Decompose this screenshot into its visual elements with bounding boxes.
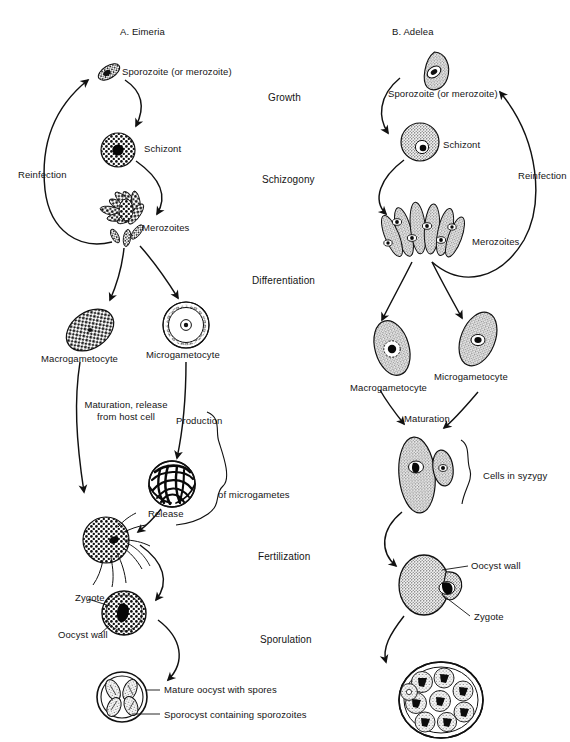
arrow-to-microgametocyte-a bbox=[140, 246, 178, 298]
label-sporozoite-a: Sporozoite (or merozoite) bbox=[122, 66, 232, 78]
arrow-to-macrogametocyte-b bbox=[382, 262, 412, 320]
label-zygote-a: Zygote bbox=[75, 592, 105, 604]
label-reinfection-a: Reinfection bbox=[18, 169, 67, 181]
merozoites-cluster-a bbox=[99, 190, 146, 248]
zygote-oocyst-a bbox=[102, 591, 146, 635]
label-maturation-a-text: Maturation, release from host cell bbox=[84, 399, 167, 422]
leader-zygote-b bbox=[444, 596, 470, 616]
stage-differentiation: Differentiation bbox=[252, 275, 315, 287]
arrow-growth-b bbox=[382, 78, 400, 133]
panel-a-title: A. Eimeria bbox=[120, 26, 165, 38]
label-merozoites-b: Merozoites bbox=[472, 236, 519, 248]
label-mature-oocyst-a: Mature oocyst with spores bbox=[164, 684, 277, 696]
sporozoite-cell-b bbox=[421, 50, 452, 91]
arrow-reinfection-a bbox=[44, 80, 112, 244]
label-reinfection-b: Reinfection bbox=[518, 170, 567, 182]
macrogametocyte-cell-a bbox=[58, 300, 121, 359]
syzygy-pair-b bbox=[396, 436, 456, 515]
label-merozoites-a: Merozoites bbox=[142, 222, 189, 234]
merozoites-cluster-b bbox=[377, 201, 468, 259]
arrow-production-a bbox=[177, 362, 186, 458]
fertilization-cell-a bbox=[83, 513, 150, 587]
stage-sporulation: Sporulation bbox=[260, 634, 312, 646]
label-microgametocyte-b: Microgametocyte bbox=[434, 371, 508, 383]
stage-growth: Growth bbox=[268, 92, 301, 104]
label-microgametocyte-a: Microgametocyte bbox=[146, 349, 220, 361]
label-production-a: Production bbox=[176, 415, 222, 427]
label-maturation-b: Maturation bbox=[404, 413, 450, 425]
label-release-a: Release bbox=[148, 508, 184, 520]
stage-schizogony: Schizogony bbox=[262, 174, 315, 186]
panel-b-title: B. Adelea bbox=[392, 26, 434, 38]
figure-coccidian-life-cycles: A. Eimeria B. Adelea Growth Schizogony D… bbox=[0, 0, 570, 742]
label-sporocyst-a: Sporocyst containing sporozoites bbox=[164, 709, 307, 721]
arrow-maturation-a bbox=[77, 362, 84, 492]
leader-oocyst-wall-b bbox=[442, 566, 468, 570]
label-schizont-b: Schizont bbox=[443, 139, 480, 151]
stage-fertilization: Fertilization bbox=[258, 551, 310, 563]
zygote-oocyst-b bbox=[399, 555, 462, 615]
microgametocyte-cell-a bbox=[163, 302, 209, 348]
label-macrogametocyte-b: Macrogametocyte bbox=[350, 382, 427, 394]
arrow-fertilization-b bbox=[385, 512, 402, 566]
macrogametocyte-cell-b bbox=[368, 316, 416, 379]
panel-b-prefix: B. bbox=[392, 26, 401, 37]
schizont-cell-a bbox=[101, 133, 135, 167]
mature-oocyst-b bbox=[399, 662, 483, 738]
schizont-cell-b bbox=[401, 123, 439, 161]
mature-oocyst-a bbox=[97, 672, 147, 722]
label-oocyst-wall-b: Oocyst wall bbox=[471, 560, 521, 572]
label-macrogametocyte-a: Macrogametocyte bbox=[41, 353, 118, 365]
panel-a-prefix: A. bbox=[120, 26, 129, 37]
arrow-growth-a bbox=[125, 80, 141, 126]
arrow-to-macrogametocyte-a bbox=[110, 248, 124, 300]
label-oocyst-wall-a: Oocyst wall bbox=[58, 629, 108, 641]
arrow-maturation-macro-b bbox=[380, 390, 404, 424]
microgamete-mass-a bbox=[149, 461, 195, 507]
sporozoite-cell-a bbox=[96, 60, 123, 83]
panel-a-genus: Eimeria bbox=[132, 26, 165, 37]
label-schizont-a: Schizont bbox=[144, 143, 181, 155]
label-zygote-b: Zygote bbox=[474, 611, 504, 623]
arrow-sporulation-a bbox=[158, 620, 179, 680]
arrow-schizogony-b bbox=[379, 160, 404, 214]
brace-syzygy-b bbox=[461, 440, 471, 504]
label-sporozoite-b: Sporozoite (or merozoite) bbox=[388, 88, 498, 100]
arrow-to-microgametocyte-b bbox=[432, 262, 462, 318]
microgametocyte-cell-b bbox=[452, 307, 505, 372]
label-of-microgametes-a: of microgametes bbox=[218, 489, 290, 501]
label-maturation-a: Maturation, release from host cell bbox=[76, 399, 176, 422]
panel-b-genus: Adelea bbox=[403, 26, 433, 37]
arrow-sporulation-b bbox=[385, 616, 404, 662]
arrow-fertilization-a bbox=[140, 545, 163, 600]
label-cells-in-syzygy-b: Cells in syzygy bbox=[483, 470, 547, 482]
